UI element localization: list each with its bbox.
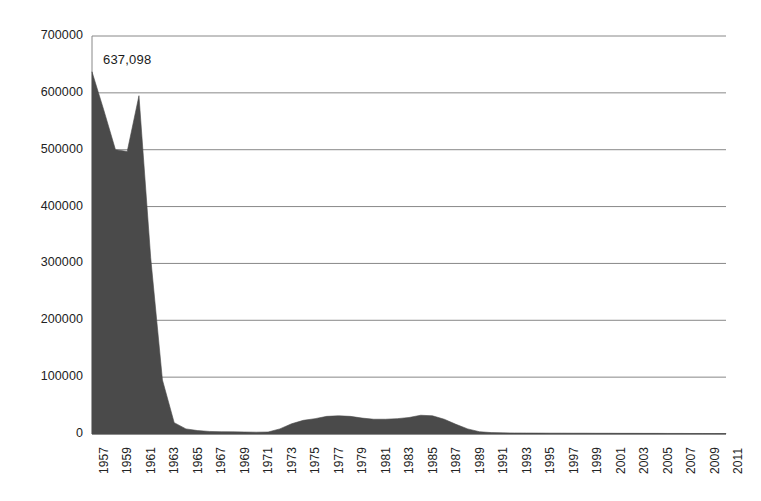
x-axis-tick-label: 1975 — [308, 447, 322, 474]
x-axis-tick-label: 1963 — [167, 447, 181, 474]
x-axis-tick-label: 1995 — [543, 447, 557, 474]
y-axis-tick-label: 700000 — [41, 28, 83, 42]
x-axis-tick-label: 1983 — [402, 447, 416, 474]
x-axis-tick-label: 2011 — [731, 448, 745, 474]
x-axis-tick-label: 1985 — [426, 447, 440, 474]
x-axis-tick-label: 1979 — [355, 447, 369, 474]
x-axis-tick-label: 1989 — [473, 447, 487, 474]
y-axis-tick-label: 300000 — [41, 255, 83, 269]
x-axis-tick-label: 2005 — [661, 447, 675, 474]
x-axis-tick-label: 2009 — [708, 447, 722, 474]
x-axis-tick-label: 1959 — [120, 447, 134, 474]
x-axis-tick-label: 2003 — [637, 447, 651, 474]
y-axis-tick-label: 600000 — [41, 85, 83, 99]
area-series — [92, 72, 726, 434]
x-axis-tick-label: 1997 — [567, 447, 581, 474]
chart-canvas — [0, 0, 761, 501]
y-axis-tick-label: 0 — [76, 426, 83, 440]
x-axis-tick-label: 1957 — [97, 447, 111, 474]
area-chart: 0100000200000300000400000500000600000700… — [0, 0, 761, 501]
gridlines — [92, 36, 726, 434]
x-axis-tick-label: 1991 — [496, 447, 510, 474]
x-axis-tick-label: 1973 — [285, 447, 299, 474]
y-axis-tick-label: 200000 — [41, 312, 83, 326]
y-axis-tick-label: 100000 — [41, 369, 83, 383]
x-axis-tick-label: 1999 — [590, 447, 604, 474]
x-axis-tick-label: 1961 — [144, 447, 158, 474]
x-axis-tick-label: 1981 — [379, 447, 393, 474]
x-axis-tick-label: 1993 — [520, 447, 534, 474]
y-axis-tick-label: 400000 — [41, 199, 83, 213]
y-axis-tick-label: 500000 — [41, 142, 83, 156]
x-axis-tick-label: 2001 — [614, 447, 628, 474]
x-axis-tick-label: 2007 — [684, 447, 698, 474]
data-point-annotation: 637,098 — [103, 52, 151, 67]
x-axis-tick-label: 1977 — [332, 447, 346, 474]
x-axis-tick-label: 1967 — [214, 447, 228, 474]
x-axis-tick-label: 1971 — [261, 447, 275, 474]
x-axis-tick-label: 1965 — [191, 447, 205, 474]
x-axis-tick-label: 1969 — [238, 447, 252, 474]
x-axis-tick-label: 1987 — [449, 447, 463, 474]
